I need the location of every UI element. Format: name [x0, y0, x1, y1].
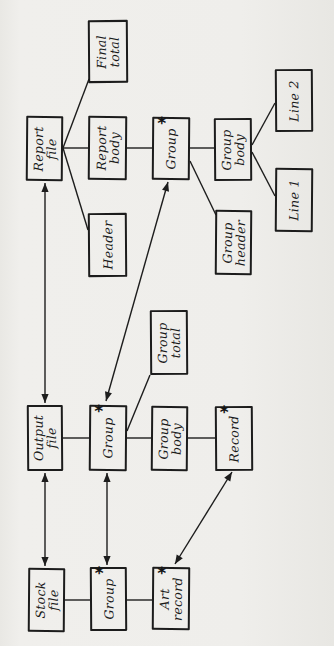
node-group-body-report: Group body: [214, 118, 252, 181]
node-label: Group total: [156, 310, 183, 375]
node-output-file: Output file: [27, 405, 63, 471]
node-label: Report file: [31, 116, 58, 181]
node-label: Group: [101, 405, 115, 471]
node-report-body: Report body: [88, 116, 128, 180]
node-label: Final total: [95, 20, 122, 83]
node-label: Report body: [94, 116, 121, 180]
node-art-record: Art record*: [152, 567, 190, 630]
node-label: Group header: [220, 210, 247, 275]
node-label: Group: [164, 117, 178, 180]
node-group-total: Group total: [150, 310, 188, 375]
iteration-asterisk-icon: *: [157, 115, 166, 132]
node-record: Record*: [215, 406, 253, 471]
node-label: Header: [101, 213, 115, 277]
node-group-report: Group*: [152, 117, 190, 180]
node-label: Record: [227, 406, 241, 471]
iteration-asterisk-icon: *: [220, 404, 229, 421]
node-label: Line 2: [287, 69, 301, 132]
node-label: Stock file: [33, 568, 60, 632]
node-label: Group body: [156, 406, 183, 471]
node-header: Header: [88, 213, 127, 277]
node-group-stock: Group*: [90, 567, 127, 631]
iteration-asterisk-icon: *: [95, 565, 104, 582]
node-group-header: Group header: [215, 210, 253, 275]
iteration-asterisk-icon: *: [94, 403, 103, 420]
node-report-file: Report file: [26, 116, 64, 181]
node-line-1: Line 1: [275, 168, 314, 232]
node-group-body-output: Group body: [151, 406, 189, 471]
iteration-asterisk-icon: *: [157, 565, 166, 582]
node-final-total: Final total: [88, 20, 128, 83]
node-label: Group body: [220, 118, 247, 181]
node-group-output: Group*: [89, 405, 128, 471]
node-label: Output file: [32, 405, 59, 471]
scanned-structure-diagram: Report fileFinal totalReport bodyHeaderG…: [0, 0, 334, 646]
nodes-layer: Report fileFinal totalReport bodyHeaderG…: [0, 0, 334, 646]
node-stock-file: Stock file: [28, 568, 66, 632]
node-line-2: Line 2: [275, 69, 313, 132]
node-label: Line 1: [287, 168, 301, 232]
